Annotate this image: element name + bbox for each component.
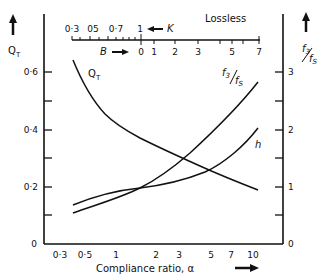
- right-tick-label: 1: [288, 182, 294, 192]
- left-axis-label: QT: [8, 45, 21, 59]
- svg-text:5: 5: [229, 47, 235, 57]
- right-tick-label: 0: [288, 239, 294, 249]
- svg-text:0·3: 0·3: [65, 24, 79, 34]
- svg-text:B: B: [100, 46, 107, 57]
- axes: [44, 14, 283, 244]
- left-tick-label: 0·6: [24, 67, 39, 77]
- x-arrow-icon: [235, 264, 259, 272]
- x-axis-title: Compliance ratio, α: [96, 263, 194, 274]
- curve-label-qt: QT: [88, 68, 101, 82]
- left-ticks: [44, 72, 52, 215]
- curve-f3-fs: [73, 82, 258, 213]
- right-axis-label: f3 fS: [302, 43, 318, 66]
- x-tick-labels: 0·3 0·5 1 2 3 5 7 10: [53, 250, 259, 260]
- svg-text:fS: fS: [235, 75, 244, 88]
- inset-title: Lossless: [205, 13, 246, 24]
- svg-text:0: 0: [138, 47, 144, 57]
- svg-text:05: 05: [87, 24, 98, 34]
- curve-h: [73, 128, 258, 205]
- left-tick-label: 0·4: [24, 125, 39, 135]
- left-tick-label: 0·2: [24, 182, 38, 192]
- left-tick-label: 0: [31, 239, 37, 249]
- right-ticks: [275, 72, 283, 215]
- svg-text:0·7: 0·7: [109, 24, 123, 34]
- svg-text:f3: f3: [222, 67, 230, 80]
- right-tick-label: 2: [288, 125, 294, 135]
- svg-text:1: 1: [151, 47, 157, 57]
- svg-text:2: 2: [153, 250, 159, 260]
- svg-text:5: 5: [208, 250, 214, 260]
- left-arrow-icon: [147, 26, 163, 32]
- svg-text:fS: fS: [309, 53, 318, 66]
- chart: 0·6 0·4 0·2 0 3 2 1 0 0·3 0·5 1 2 3 5 7 …: [0, 0, 333, 278]
- right-arrow-icon: [112, 49, 129, 55]
- svg-text:2: 2: [172, 47, 178, 57]
- svg-text:1: 1: [113, 250, 119, 260]
- svg-text:3: 3: [176, 250, 182, 260]
- svg-text:10: 10: [247, 250, 259, 260]
- svg-text:7: 7: [256, 47, 262, 57]
- svg-text:7: 7: [228, 250, 234, 260]
- curve-label-f3-fs: f3 fS: [222, 67, 244, 88]
- right-tick-label: 3: [288, 67, 294, 77]
- svg-text:0·3: 0·3: [53, 250, 67, 260]
- curve-label-h: h: [255, 139, 261, 150]
- svg-text:0·5: 0·5: [78, 250, 92, 260]
- curve-qt: [73, 60, 258, 190]
- up-arrow-icon: [302, 12, 310, 32]
- svg-text:3: 3: [195, 47, 201, 57]
- inset-scale: Lossless 0·3 05 0·7 1: [65, 13, 262, 57]
- svg-text:1: 1: [137, 24, 143, 34]
- svg-text:K: K: [167, 23, 175, 34]
- up-arrow-icon: [9, 14, 17, 35]
